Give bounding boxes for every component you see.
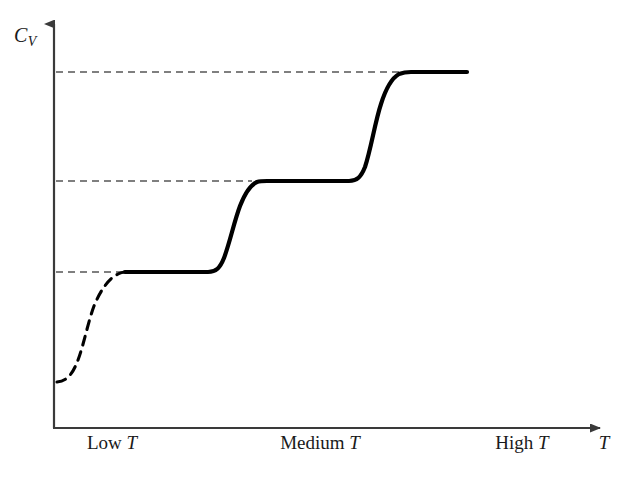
chart-canvas xyxy=(0,0,638,483)
x-tick-high-variable: T xyxy=(538,432,549,453)
x-tick-low-variable: T xyxy=(127,432,138,453)
x-tick-medium-text: Medium xyxy=(280,432,344,453)
chart-figure: CV Low T Medium T High T T xyxy=(0,0,638,483)
y-axis-label-base: C xyxy=(14,24,27,46)
x-tick-label-low: Low T xyxy=(87,432,137,454)
y-axis-label-subscript: V xyxy=(28,34,37,49)
x-tick-label-medium: Medium T xyxy=(280,432,360,454)
axes-group xyxy=(53,24,600,428)
x-tick-low-text: Low xyxy=(87,432,122,453)
curve-extrapolated-low-t xyxy=(57,272,125,382)
x-axis-label: T xyxy=(599,432,610,454)
x-tick-medium-variable: T xyxy=(349,432,360,453)
y-axis-label: CV xyxy=(14,24,36,50)
x-tick-high-text: High xyxy=(495,432,533,453)
curve-heat-capacity-staircase xyxy=(125,72,467,272)
x-tick-label-high: High T xyxy=(495,432,548,454)
